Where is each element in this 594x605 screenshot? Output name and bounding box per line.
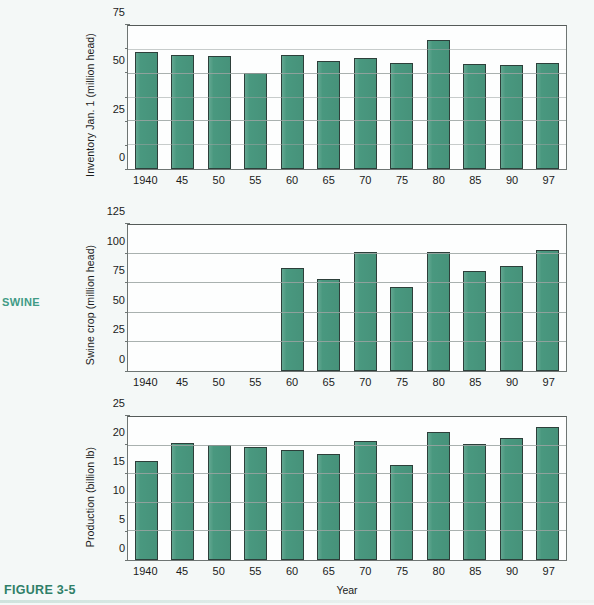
gridline	[128, 445, 566, 446]
bar	[135, 52, 158, 169]
x-tick-label: 85	[457, 376, 494, 388]
x-tick-label: 50	[200, 565, 237, 577]
x-tick-label: 45	[164, 376, 201, 388]
x-tick-label: 97	[530, 376, 567, 388]
gridline	[128, 73, 566, 74]
x-tick-label: 1940	[127, 174, 164, 186]
bar-slot	[128, 225, 165, 371]
chart-production-x-axis-title: Year	[127, 584, 567, 596]
chart-swine-crop-y-axis: 0255075100125	[80, 224, 125, 372]
bar-slot	[128, 417, 165, 560]
y-tick-label: 25	[85, 397, 125, 409]
bar-slot	[165, 417, 202, 560]
y-tick-label: 100	[85, 235, 125, 247]
bar-slot	[420, 417, 457, 560]
x-tick-label: 55	[237, 376, 274, 388]
bar-slot	[347, 225, 384, 371]
figure-page: SWINE Inventory Jan. 1 (million head) 02…	[0, 0, 594, 605]
x-tick-label: 75	[384, 174, 421, 186]
bar	[427, 40, 450, 169]
y-tick-label: 20	[85, 426, 125, 438]
chart-inventory-x-tick-labels: 19404550556065707580859097	[127, 174, 567, 186]
x-tick-label: 80	[420, 376, 457, 388]
bar	[244, 447, 267, 560]
bar-slot	[311, 417, 348, 560]
bar-slot	[493, 26, 530, 169]
x-tick-label: 50	[200, 174, 237, 186]
bar-slot	[457, 225, 494, 371]
gridline-minor	[128, 97, 566, 98]
x-tick-label: 90	[494, 174, 531, 186]
chart-inventory-bars	[128, 26, 566, 169]
chart-production-bars	[128, 417, 566, 560]
x-tick-label: 60	[274, 565, 311, 577]
x-tick-label: 80	[420, 174, 457, 186]
x-tick-label: 65	[310, 174, 347, 186]
gridline	[128, 341, 566, 342]
bar-slot	[530, 26, 567, 169]
x-tick-label: 65	[310, 376, 347, 388]
x-tick-label: 60	[274, 174, 311, 186]
x-tick-label: 90	[494, 565, 531, 577]
bar	[536, 250, 559, 371]
bar-slot	[238, 417, 275, 560]
chart-swine-crop-x-tick-labels: 19404550556065707580859097	[127, 376, 567, 388]
y-tick-label: 50	[85, 54, 125, 66]
bar-slot	[201, 417, 238, 560]
bar	[281, 450, 304, 560]
bar	[354, 58, 377, 169]
y-tick-label: 125	[85, 205, 125, 217]
bar-slot	[311, 26, 348, 169]
bar-slot	[201, 225, 238, 371]
x-tick-label: 85	[457, 565, 494, 577]
chart-inventory-plot-area	[127, 25, 567, 170]
x-tick-label: 55	[237, 174, 274, 186]
bar-slot	[347, 26, 384, 169]
gridline	[128, 502, 566, 503]
bar-slot	[530, 417, 567, 560]
y-tick-label: 50	[85, 294, 125, 306]
gridline-minor	[128, 144, 566, 145]
bar	[354, 441, 377, 560]
chart-production-x-tick-labels: 19404550556065707580859097	[127, 565, 567, 577]
x-tick-label: 70	[347, 565, 384, 577]
y-tick-label: 5	[85, 513, 125, 525]
chart-inventory: Inventory Jan. 1 (million head) 0255075 …	[0, 6, 594, 202]
bar	[463, 64, 486, 169]
chart-swine-crop-bars	[128, 225, 566, 371]
bar-slot	[384, 417, 421, 560]
bar-slot	[311, 225, 348, 371]
x-tick-label: 97	[530, 565, 567, 577]
bar	[500, 438, 523, 560]
chart-swine-crop: Swine crop (million head) 0255075100125 …	[0, 204, 594, 400]
x-tick-label: 50	[200, 376, 237, 388]
gridline	[128, 473, 566, 474]
x-tick-label: 65	[310, 565, 347, 577]
bar-slot	[274, 225, 311, 371]
bar	[390, 465, 413, 560]
bar-slot	[347, 417, 384, 560]
y-tick-label: 75	[85, 6, 125, 18]
gridline	[128, 530, 566, 531]
x-tick-label: 70	[347, 174, 384, 186]
bar-slot	[384, 26, 421, 169]
bar	[390, 287, 413, 371]
y-tick-label: 25	[85, 323, 125, 335]
figure-rule	[0, 600, 594, 603]
gridline-minor	[128, 49, 566, 50]
bar-slot	[274, 26, 311, 169]
bar-slot	[165, 26, 202, 169]
bar	[536, 427, 559, 560]
bar-slot	[457, 26, 494, 169]
bar-slot	[274, 417, 311, 560]
chart-swine-crop-plot-area	[127, 224, 567, 372]
bar-slot	[420, 26, 457, 169]
bar-slot	[530, 225, 567, 371]
bar-slot	[420, 225, 457, 371]
chart-inventory-y-axis: 0255075	[80, 25, 125, 170]
bar	[536, 63, 559, 169]
bar-slot	[128, 26, 165, 169]
y-tick-label: 0	[85, 151, 125, 163]
bar-slot	[165, 225, 202, 371]
bar	[500, 65, 523, 169]
